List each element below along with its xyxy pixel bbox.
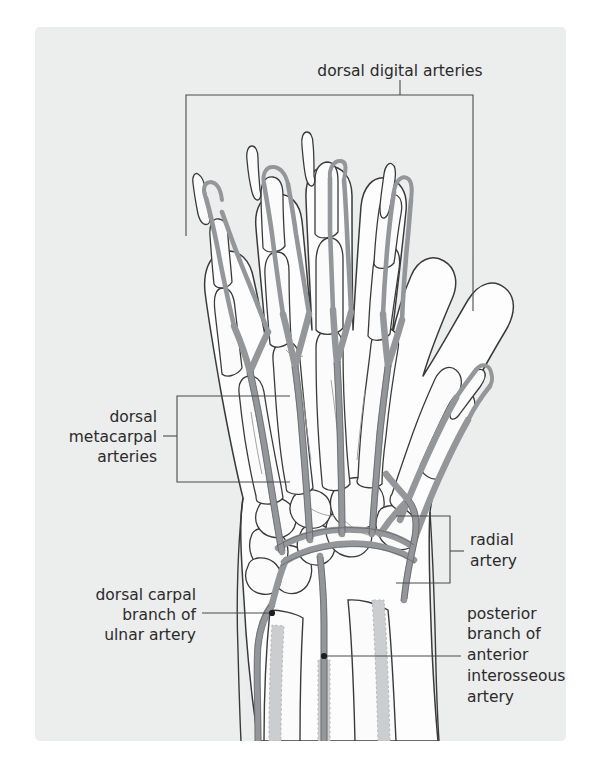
label-interosseous-line-3: interosseous (467, 667, 565, 685)
label-interosseous-line-0: posterior (467, 605, 537, 623)
label-dorsal-metacarpal-line-0: dorsal (109, 408, 157, 426)
anatomy-figure: dorsal digital arteries dorsal metacarpa… (0, 0, 600, 767)
label-dorsal-metacarpal-line-2: arteries (97, 448, 157, 466)
label-dorsal-digital-arteries: dorsal digital arteries (317, 62, 482, 80)
label-dorsal-metacarpal-line-1: metacarpal (69, 428, 157, 446)
label-ulnar-line-0: dorsal carpal (95, 586, 196, 604)
dot-interosseous (321, 653, 327, 659)
label-ulnar-line-2: ulnar artery (104, 626, 196, 644)
label-radial-line-0: radial (470, 531, 514, 549)
label-interosseous-line-2: anterior (467, 646, 529, 664)
label-radial-line-1: artery (470, 552, 517, 570)
label-ulnar-line-1: branch of (122, 606, 196, 624)
label-dorsal-digital-line-0: dorsal digital arteries (317, 62, 482, 80)
label-interosseous-line-1: branch of (467, 625, 541, 643)
dot-ulnar-branch (269, 610, 275, 616)
label-interosseous-line-4: artery (467, 688, 514, 706)
